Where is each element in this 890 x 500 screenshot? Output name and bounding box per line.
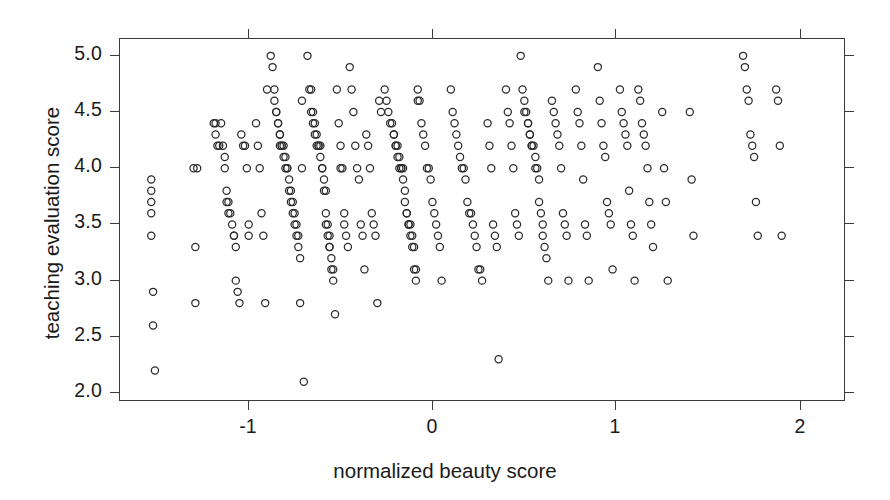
data-point [221,153,228,160]
data-point [548,97,555,104]
data-point [464,198,471,205]
data-point [414,86,421,93]
data-point [401,198,408,205]
data-point [513,221,520,228]
y-tick-mark [110,223,119,224]
data-point [297,255,304,262]
data-point [374,300,381,307]
data-point [449,108,456,115]
data-points-layer [120,39,846,402]
data-point [285,176,292,183]
data-point [493,243,500,250]
data-point [541,243,548,250]
data-point [495,356,502,363]
data-point [576,120,583,127]
data-point [245,232,252,239]
data-point [473,243,480,250]
data-point [537,210,544,217]
data-point [504,108,511,115]
data-point [258,210,265,217]
x-tick-label: -1 [239,415,256,438]
data-point [521,97,528,104]
x-tick-mark [800,29,801,38]
y-tick-mark [110,111,119,112]
data-point [624,142,631,149]
data-point [508,142,515,149]
y-tick-mark [845,55,854,56]
x-tick-mark [248,29,249,38]
data-point [515,232,522,239]
data-point [626,187,633,194]
data-point [229,221,236,228]
data-point [333,86,340,93]
data-point [438,277,445,284]
data-point [390,131,397,138]
data-point [320,176,327,183]
data-point [578,142,585,149]
data-point [543,255,550,262]
data-point [385,108,392,115]
data-point [232,243,239,250]
data-point [359,232,366,239]
data-point [418,120,425,127]
data-point [337,142,344,149]
data-point [545,277,552,284]
data-point [561,221,568,228]
data-point [232,277,239,284]
data-point [234,288,241,295]
data-point [596,97,603,104]
data-point [383,97,390,104]
data-point [471,232,478,239]
data-point [357,221,364,228]
y-axis-label: teaching evaluation score [40,58,64,388]
data-point [401,187,408,194]
data-point [451,120,458,127]
data-point [436,243,443,250]
data-point [341,221,348,228]
data-point [583,232,590,239]
data-point [486,142,493,149]
data-point [245,221,252,228]
data-point [484,120,491,127]
data-point [447,86,454,93]
data-point [778,232,785,239]
data-point [743,86,750,93]
data-point [627,221,634,228]
data-point [646,198,653,205]
data-point [585,277,592,284]
data-point [478,277,485,284]
data-point [420,131,427,138]
data-point [403,210,410,217]
data-point [267,52,274,59]
data-point [326,243,333,250]
data-point [581,221,588,228]
data-point [271,97,278,104]
data-point [648,221,655,228]
data-point [602,153,609,160]
data-point [638,120,645,127]
data-point [594,64,601,71]
data-point [262,300,269,307]
data-point [664,277,671,284]
data-point [488,165,495,172]
data-point [622,131,629,138]
data-point [298,165,305,172]
data-point [276,131,283,138]
data-point [192,300,199,307]
data-point [148,187,155,194]
data-point [751,153,758,160]
data-point [745,97,752,104]
data-point [690,232,697,239]
data-point [552,120,559,127]
data-point [274,120,281,127]
data-point [754,232,761,239]
data-point [352,142,359,149]
data-point [331,311,338,318]
data-point [297,300,304,307]
data-point [372,232,379,239]
data-point [427,176,434,183]
data-point [348,86,355,93]
data-point [322,210,329,217]
data-point [431,210,438,217]
y-tick-mark [110,167,119,168]
